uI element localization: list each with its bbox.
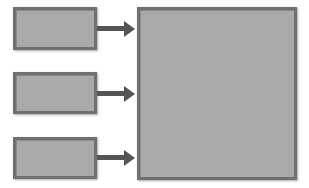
arrow-3-shaft	[97, 155, 125, 160]
arrow-2-shaft	[97, 91, 125, 96]
arrow-1-head-icon	[124, 21, 135, 37]
input-box-3	[13, 137, 97, 179]
target-box	[137, 7, 297, 180]
arrow-2-head-icon	[124, 86, 135, 102]
input-box-1	[13, 7, 97, 50]
arrow-3-head-icon	[124, 150, 135, 166]
input-box-2	[13, 72, 97, 114]
arrow-1-shaft	[97, 26, 125, 31]
